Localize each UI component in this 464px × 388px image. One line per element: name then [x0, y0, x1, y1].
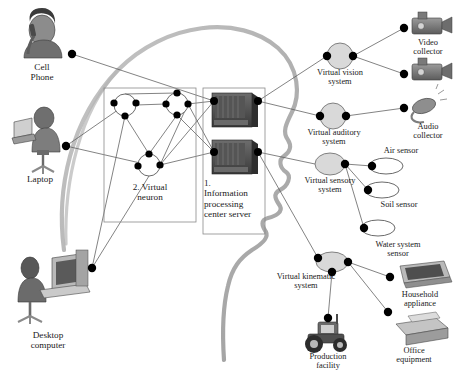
- video-camera-icon: [400, 58, 452, 80]
- label-virtual-neuron: 2. Virtual neuron: [108, 182, 192, 203]
- label-virtual-vision-system: Virtual vision system: [297, 68, 383, 87]
- label-video-collector: Video collector: [400, 38, 456, 57]
- server-upper-port-right: [254, 97, 262, 105]
- label-soil-sensor: Soil sensor: [366, 200, 432, 209]
- label-cell-phone: Cell Phone: [14, 62, 70, 83]
- server-lower-port-right: [254, 148, 262, 156]
- tractor-icon: [305, 314, 347, 353]
- virtual-auditory-node: [316, 103, 350, 129]
- label-desktop-computer: Desktop computer: [8, 330, 88, 351]
- label-virtual-kinematic-system: Virtual kinematic system: [256, 272, 356, 291]
- server-rack-upper: [212, 93, 258, 127]
- label-household-appliance: Household appliance: [382, 290, 458, 309]
- label-air-sensor: Air sensor: [368, 146, 434, 155]
- person-with-phone-icon: [24, 8, 76, 58]
- label-production-facility: Production facility: [290, 352, 366, 371]
- person-at-desktop-icon: [18, 250, 96, 324]
- diagram-canvas: Cell Phone Laptop Desktop computer 2. Vi…: [0, 0, 464, 388]
- label-information-processing-center-server: 1. Information processing center server: [204, 178, 264, 219]
- headset-microphone-icon: [400, 84, 447, 122]
- label-laptop: Laptop: [8, 174, 72, 184]
- label-virtual-auditory-system: Virtual auditory system: [288, 128, 380, 147]
- server-rack-lower: [212, 140, 258, 174]
- server-lower-port-left: [210, 148, 218, 156]
- label-virtual-sensory-system: Virtual sensory system: [284, 176, 376, 195]
- virtual-vision-node: [323, 43, 357, 69]
- label-office-equipment: Office equipment: [380, 346, 448, 365]
- video-camera-icon: [400, 12, 452, 34]
- label-water-system-sensor: Water system sensor: [358, 240, 438, 259]
- water-system-sensor-icon: [360, 220, 395, 236]
- printer-icon: [384, 308, 448, 345]
- neuron-nodes: [110, 89, 191, 176]
- server-upper-port-left: [210, 97, 218, 105]
- air-sensor-icon: [368, 158, 403, 174]
- virtual-sensory-node: [315, 153, 349, 175]
- television-icon: [386, 261, 452, 288]
- person-with-laptop-icon: [12, 107, 70, 174]
- label-audio-collector: Audio collector: [400, 122, 456, 141]
